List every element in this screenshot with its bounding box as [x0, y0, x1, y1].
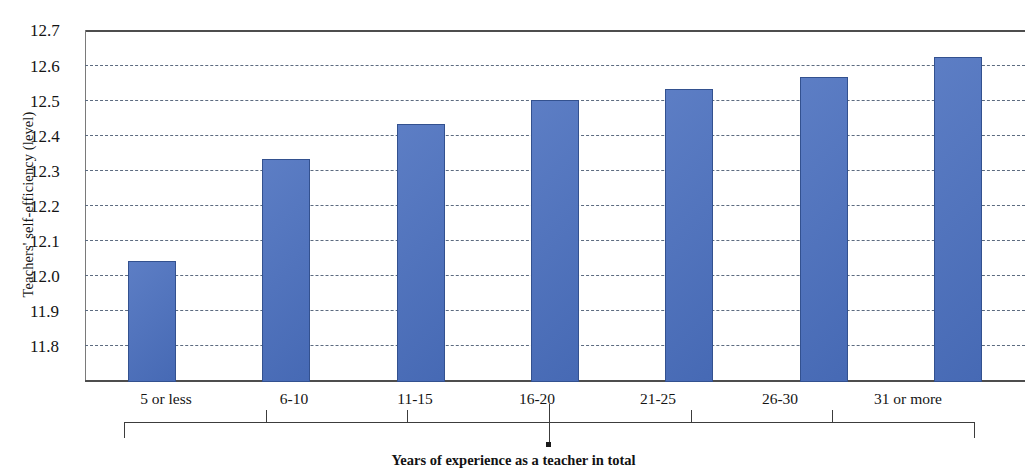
y-tick-label-12-2: 12.2	[30, 198, 78, 215]
bracket-end-left	[124, 422, 125, 438]
x-tick-label-4: 21-25	[598, 390, 718, 408]
plot-area	[85, 30, 1025, 382]
bracket-stem	[549, 404, 550, 443]
bracket-stem-dot	[546, 442, 551, 447]
x-tick-label-6: 31 or more	[838, 390, 978, 408]
y-tick-label-12-7: 12.7	[30, 22, 78, 39]
bar[interactable]	[665, 89, 713, 382]
bar[interactable]	[800, 77, 848, 382]
x-tick-label-1: 6-10	[234, 390, 354, 408]
plot-left-border	[85, 30, 86, 382]
bar[interactable]	[262, 159, 310, 382]
plot-top-border	[85, 30, 1025, 32]
y-tick-label-12-0: 12.0	[30, 268, 78, 285]
bracket-tick-1	[266, 410, 267, 422]
bar-chart-figure: Teachers' self-efficiency (level) 12.7 1…	[0, 0, 1027, 472]
x-tick-label-2: 11-15	[355, 390, 475, 408]
y-tick-label-12-5: 12.5	[30, 93, 78, 110]
bar[interactable]	[531, 100, 579, 382]
bar[interactable]	[128, 261, 176, 382]
x-axis-title: Years of experience as a teacher in tota…	[0, 452, 1027, 469]
y-tick-label-12-4: 12.4	[30, 128, 78, 145]
gridline-12-6	[85, 65, 1025, 66]
y-tick-label-12-3: 12.3	[30, 163, 78, 180]
bracket-tick-5	[832, 410, 833, 422]
y-tick-label-11-8: 11.8	[30, 338, 78, 355]
y-tick-label-12-6: 12.6	[30, 58, 78, 75]
bracket-end-right	[974, 422, 975, 438]
bracket-tick-4	[691, 410, 692, 422]
bar[interactable]	[397, 124, 445, 382]
x-tick-label-3: 16-20	[477, 390, 597, 408]
y-tick-label-12-1: 12.1	[30, 233, 78, 250]
y-tick-label-11-9: 11.9	[30, 303, 78, 320]
bar[interactable]	[934, 57, 982, 382]
x-tick-label-0: 5 or less	[106, 390, 226, 408]
x-axis-bracket	[124, 422, 975, 444]
x-tick-label-5: 26-30	[720, 390, 840, 408]
bracket-tick-2	[407, 410, 408, 422]
